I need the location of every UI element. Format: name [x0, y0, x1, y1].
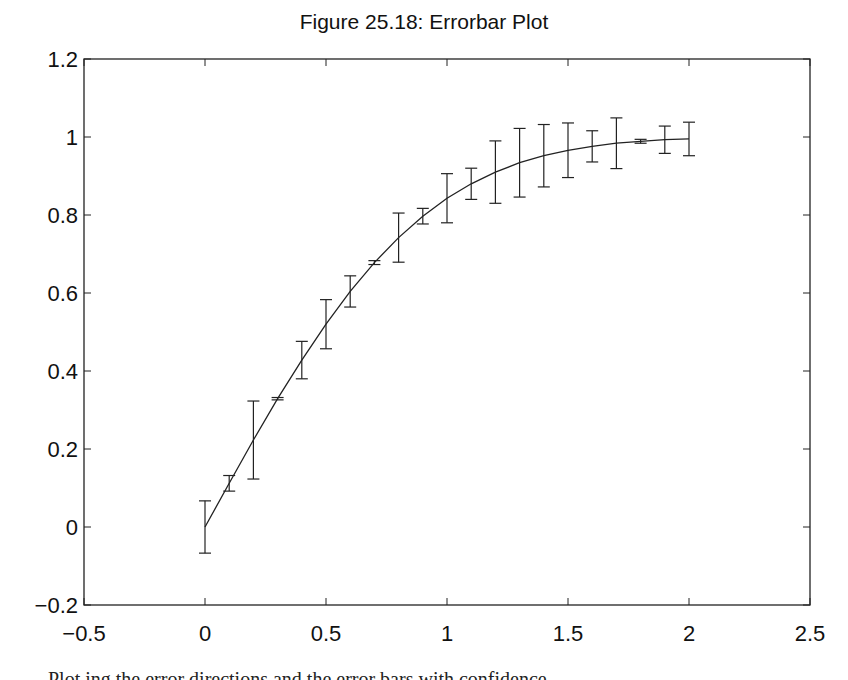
- x-tick-label: 1.5: [553, 621, 584, 646]
- axes-frame: [84, 59, 810, 605]
- x-tick-label: 0: [199, 621, 211, 646]
- errorbar-plot: −0.500.511.522.5−0.200.20.40.60.811.2: [0, 0, 848, 680]
- y-tick-label: 0.2: [47, 437, 78, 462]
- x-tick-label: −0.5: [62, 621, 105, 646]
- x-tick-label: 2.5: [795, 621, 826, 646]
- x-tick-label: 2: [683, 621, 695, 646]
- y-tick-label: 0: [66, 515, 78, 540]
- y-tick-label: −0.2: [35, 593, 78, 618]
- y-tick-label: 0.6: [47, 281, 78, 306]
- y-tick-label: 1.2: [47, 47, 78, 72]
- figure-caption: Plot ing the error directions and the er…: [48, 666, 547, 680]
- y-tick-label: 0.4: [47, 359, 78, 384]
- y-tick-label: 1: [66, 125, 78, 150]
- x-tick-label: 1: [441, 621, 453, 646]
- y-tick-label: 0.8: [47, 203, 78, 228]
- x-tick-label: 0.5: [311, 621, 342, 646]
